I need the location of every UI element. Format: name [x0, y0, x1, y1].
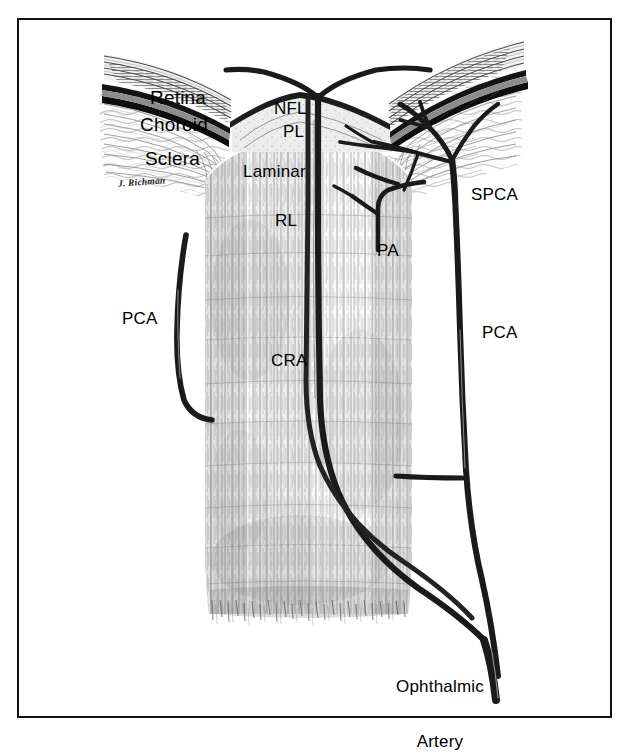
- label-pca-right: PCA: [482, 324, 518, 342]
- optic-disc-region: [230, 92, 392, 152]
- label-nfl: NFL: [274, 100, 307, 118]
- label-pa: PA: [377, 242, 399, 260]
- label-rl: RL: [275, 212, 297, 230]
- label-choroid: Choroid: [140, 115, 208, 136]
- label-laminar: Laminar: [243, 163, 306, 181]
- label-sclera: Sclera: [145, 149, 200, 170]
- label-ophthalmic-artery-line1: Ophthalmic: [396, 678, 484, 696]
- label-retina: Retina: [150, 88, 206, 109]
- label-pca-left: PCA: [122, 310, 158, 328]
- label-ophthalmic-artery: Ophthalmic Artery: [396, 641, 484, 754]
- label-spca: SPCA: [471, 186, 518, 204]
- label-cra: CRA: [271, 352, 308, 370]
- label-pl: PL: [283, 123, 304, 141]
- label-ophthalmic-artery-line2: Artery: [396, 733, 484, 751]
